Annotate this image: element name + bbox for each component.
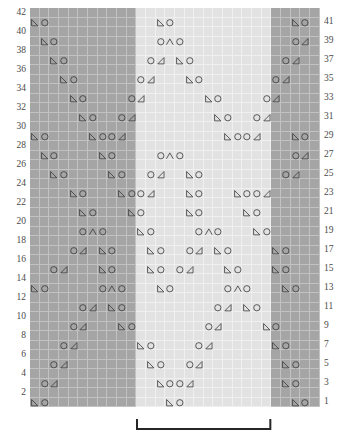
chart-cell[interactable] <box>310 198 320 208</box>
chart-cell[interactable] <box>69 360 79 370</box>
chart-cell[interactable] <box>30 37 40 47</box>
chart-cell[interactable] <box>242 322 252 332</box>
chart-cell[interactable] <box>146 94 156 104</box>
chart-cell[interactable] <box>117 18 127 28</box>
chart-cell[interactable] <box>271 198 281 208</box>
chart-cell[interactable] <box>194 132 204 142</box>
chart-cell[interactable] <box>78 151 88 161</box>
chart-cell[interactable] <box>78 170 88 180</box>
chart-cell[interactable] <box>127 331 137 341</box>
chart-cell[interactable] <box>291 388 301 398</box>
chart-cell[interactable] <box>310 132 320 142</box>
chart-cell[interactable] <box>223 27 233 37</box>
chart-cell[interactable] <box>107 255 117 265</box>
chart-cell[interactable] <box>185 255 195 265</box>
chart-cell[interactable] <box>233 312 243 322</box>
chart-cell[interactable] <box>98 170 108 180</box>
chart-cell[interactable] <box>194 303 204 313</box>
chart-cell[interactable] <box>98 75 108 85</box>
chart-cell[interactable] <box>271 379 281 389</box>
chart-cell[interactable] <box>69 388 79 398</box>
chart-cell[interactable] <box>117 198 127 208</box>
chart-cell[interactable] <box>117 75 127 85</box>
chart-cell[interactable] <box>185 274 195 284</box>
chart-cell[interactable] <box>117 236 127 246</box>
chart-cell[interactable] <box>127 46 137 56</box>
chart-cell[interactable] <box>213 75 223 85</box>
chart-cell[interactable] <box>185 132 195 142</box>
chart-cell[interactable] <box>204 170 214 180</box>
chart-cell[interactable] <box>233 379 243 389</box>
chart-cell[interactable] <box>165 274 175 284</box>
chart-cell[interactable] <box>40 46 50 56</box>
chart-cell[interactable] <box>204 284 214 294</box>
chart-cell[interactable] <box>156 360 166 370</box>
chart-cell[interactable] <box>98 236 108 246</box>
chart-cell[interactable] <box>88 255 98 265</box>
chart-cell[interactable] <box>127 84 137 94</box>
chart-cell[interactable] <box>165 217 175 227</box>
chart-cell[interactable] <box>271 170 281 180</box>
chart-cell[interactable] <box>213 122 223 132</box>
chart-cell[interactable] <box>242 170 252 180</box>
chart-cell[interactable] <box>300 208 310 218</box>
chart-cell[interactable] <box>271 217 281 227</box>
chart-cell[interactable] <box>242 75 252 85</box>
chart-cell[interactable] <box>107 37 117 47</box>
chart-cell[interactable] <box>252 284 262 294</box>
chart-cell[interactable] <box>291 65 301 75</box>
chart-cell[interactable] <box>204 379 214 389</box>
chart-cell[interactable] <box>40 132 50 142</box>
chart-cell[interactable] <box>136 236 146 246</box>
chart-cell[interactable] <box>281 293 291 303</box>
chart-cell[interactable] <box>281 303 291 313</box>
chart-cell[interactable] <box>310 94 320 104</box>
chart-cell[interactable] <box>127 18 137 28</box>
chart-cell[interactable] <box>185 75 195 85</box>
chart-cell[interactable] <box>213 293 223 303</box>
chart-cell[interactable] <box>194 84 204 94</box>
chart-cell[interactable] <box>98 27 108 37</box>
chart-cell[interactable] <box>107 293 117 303</box>
chart-cell[interactable] <box>88 369 98 379</box>
chart-cell[interactable] <box>88 398 98 408</box>
chart-cell[interactable] <box>127 274 137 284</box>
chart-cell[interactable] <box>40 246 50 256</box>
chart-cell[interactable] <box>78 293 88 303</box>
chart-cell[interactable] <box>204 227 214 237</box>
chart-cell[interactable] <box>69 141 79 151</box>
chart-cell[interactable] <box>88 341 98 351</box>
chart-cell[interactable] <box>146 246 156 256</box>
chart-cell[interactable] <box>59 255 69 265</box>
chart-cell[interactable] <box>49 265 59 275</box>
chart-cell[interactable] <box>165 84 175 94</box>
chart-cell[interactable] <box>233 198 243 208</box>
chart-cell[interactable] <box>194 246 204 256</box>
chart-cell[interactable] <box>262 236 272 246</box>
chart-cell[interactable] <box>30 132 40 142</box>
chart-cell[interactable] <box>107 331 117 341</box>
chart-cell[interactable] <box>59 322 69 332</box>
chart-cell[interactable] <box>59 170 69 180</box>
chart-cell[interactable] <box>136 160 146 170</box>
chart-cell[interactable] <box>175 46 185 56</box>
chart-cell[interactable] <box>69 151 79 161</box>
chart-cell[interactable] <box>127 65 137 75</box>
chart-cell[interactable] <box>252 398 262 408</box>
chart-cell[interactable] <box>107 350 117 360</box>
chart-cell[interactable] <box>300 265 310 275</box>
chart-cell[interactable] <box>146 132 156 142</box>
chart-cell[interactable] <box>156 379 166 389</box>
chart-cell[interactable] <box>98 227 108 237</box>
chart-cell[interactable] <box>30 84 40 94</box>
chart-cell[interactable] <box>107 189 117 199</box>
chart-cell[interactable] <box>242 84 252 94</box>
chart-cell[interactable] <box>165 379 175 389</box>
chart-cell[interactable] <box>223 265 233 275</box>
chart-cell[interactable] <box>185 103 195 113</box>
chart-cell[interactable] <box>146 160 156 170</box>
chart-cell[interactable] <box>242 37 252 47</box>
chart-cell[interactable] <box>69 303 79 313</box>
chart-cell[interactable] <box>40 322 50 332</box>
chart-cell[interactable] <box>223 293 233 303</box>
